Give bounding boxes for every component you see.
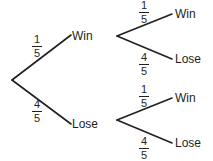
fraction-numerator: 4 xyxy=(30,99,44,110)
probability-label-lose-lose: 4 5 xyxy=(137,136,151,161)
fraction-denominator: 5 xyxy=(30,48,44,59)
probability-label-root-lose: 4 5 xyxy=(30,99,44,124)
outcome-label-level1-win: Win xyxy=(72,30,93,42)
probability-label-root-win: 1 5 xyxy=(30,34,44,59)
fraction-denominator: 5 xyxy=(30,113,44,124)
probability-label-lose-win: 1 5 xyxy=(137,84,151,109)
fraction-numerator: 1 xyxy=(30,34,44,45)
probability-tree-diagram: Win Lose Win Lose Win Lose 1 5 4 5 1 5 4… xyxy=(0,0,213,161)
outcome-label-win-win: Win xyxy=(175,8,196,20)
fraction-denominator: 5 xyxy=(137,150,151,161)
fraction-numerator: 4 xyxy=(137,52,151,63)
fraction-numerator: 1 xyxy=(137,84,151,95)
probability-label-win-win: 1 5 xyxy=(137,0,151,25)
fraction-numerator: 4 xyxy=(137,136,151,147)
outcome-label-lose-win: Win xyxy=(175,92,196,104)
probability-label-win-lose: 4 5 xyxy=(137,52,151,77)
fraction-denominator: 5 xyxy=(137,98,151,109)
fraction-denominator: 5 xyxy=(137,66,151,77)
fraction-numerator: 1 xyxy=(137,0,151,11)
outcome-label-win-lose: Lose xyxy=(175,53,201,65)
outcome-label-level1-lose: Lose xyxy=(72,118,98,130)
outcome-label-lose-lose: Lose xyxy=(175,137,201,149)
fraction-denominator: 5 xyxy=(137,14,151,25)
